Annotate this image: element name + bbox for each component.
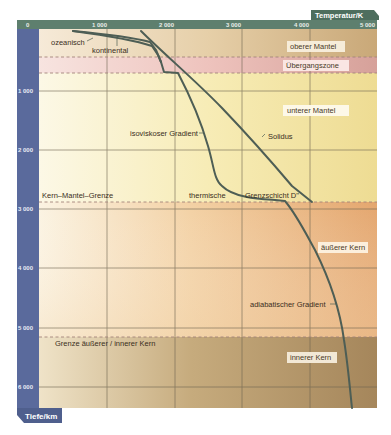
y-tick-2000: 2 000: [18, 147, 34, 153]
annotation-solidus: Solidus: [268, 132, 293, 141]
label-oberer-mantel: oberer Mantel: [290, 42, 337, 51]
earth-temperature-depth-chart: Tiefe/km Temperatur/K 0 1 000 2 000 3 00…: [0, 0, 391, 435]
layer-outer-core-shade: [39, 202, 377, 337]
label-uebergangszone: Übergangszone: [286, 61, 339, 70]
depth-axis-bar: [17, 29, 39, 408]
label-aeusserer-kern: äußerer Kern: [321, 243, 365, 252]
temperature-axis-bar: [17, 20, 377, 29]
x-tick-2000: 2 000: [159, 22, 175, 28]
x-tick-3000: 3 000: [226, 22, 242, 28]
annotation-adiabatischer-gradient: adiabatischer Gradient: [250, 300, 326, 309]
layer-lower-mantle: [39, 73, 377, 202]
depth-axis-title: Tiefe/km: [25, 412, 57, 421]
annotation-thermische: thermische: [189, 191, 226, 200]
label-innerer-kern: innerer Kern: [290, 353, 331, 362]
y-tick-4000: 4 000: [18, 265, 34, 271]
annotation-isoviskoser-gradient: isoviskoser Gradient: [130, 129, 199, 138]
x-tick-5000: 5 000: [360, 22, 376, 28]
x-tick-4000: 4 000: [294, 22, 310, 28]
annotation-kontinental: kontinental: [92, 46, 129, 55]
y-tick-1000: 1 000: [18, 88, 34, 94]
annotation-kern-mantel-grenze: Kern–Mantel–Grenze: [42, 191, 113, 200]
y-tick-6000: 6 000: [18, 384, 34, 390]
annotation-ozeanisch: ozeanisch: [51, 38, 85, 47]
y-tick-3000: 3 000: [18, 206, 34, 212]
temperature-axis-title: Temperatur/K: [315, 11, 364, 20]
annotation-grenzschicht: Grenzschicht D": [245, 191, 299, 200]
y-tick-5000: 5 000: [18, 325, 34, 331]
annotation-grenze-innerer-kern: Grenze äußerer / innerer Kern: [55, 339, 155, 348]
x-tick-1000: 1 000: [92, 22, 108, 28]
label-unterer-mantel: unterer Mantel: [287, 106, 336, 115]
earth-layers: [39, 29, 377, 408]
